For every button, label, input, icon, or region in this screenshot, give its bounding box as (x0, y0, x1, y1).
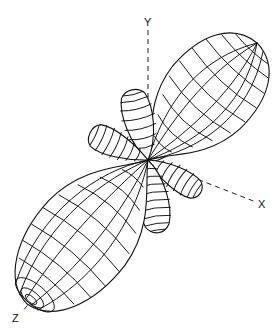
radiation-pattern-diagram: Y X Z (0, 0, 280, 335)
y-axis-label: Y (144, 16, 152, 28)
x-axis-label: X (258, 198, 266, 210)
z-axis-label: Z (12, 312, 19, 324)
